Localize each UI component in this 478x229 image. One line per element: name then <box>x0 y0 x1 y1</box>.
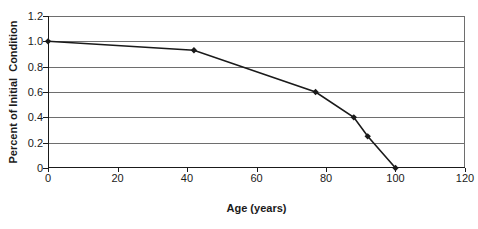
plot-area <box>48 16 465 168</box>
x-axis-title: Age (years) <box>48 202 465 214</box>
y-tick-label: 0.4 <box>28 111 43 123</box>
condition-line-series <box>48 16 465 168</box>
x-tick-labels: 0 20 40 60 80 100 120 <box>48 172 465 186</box>
x-tick-label: 60 <box>250 172 262 184</box>
y-tick-label: 0.6 <box>28 86 43 98</box>
x-tick-label: 100 <box>386 172 404 184</box>
x-tick-label: 80 <box>320 172 332 184</box>
x-tick-label: 40 <box>181 172 193 184</box>
y-tick-labels: 1.2 1.0 0.8 0.6 0.4 0.2 0 <box>0 16 43 168</box>
x-tick-label: 20 <box>111 172 123 184</box>
y-tick-label: 1.0 <box>28 35 43 47</box>
deterioration-chart: Percent of Initial Condition 1.2 1.0 0.8… <box>0 0 478 229</box>
y-tick-label: 0.2 <box>28 137 43 149</box>
y-tick-label: 1.2 <box>28 10 43 22</box>
y-tick-label: 0 <box>37 162 43 174</box>
y-tick-label: 0.8 <box>28 61 43 73</box>
x-tick-label: 120 <box>456 172 474 184</box>
x-tick-label: 0 <box>45 172 51 184</box>
